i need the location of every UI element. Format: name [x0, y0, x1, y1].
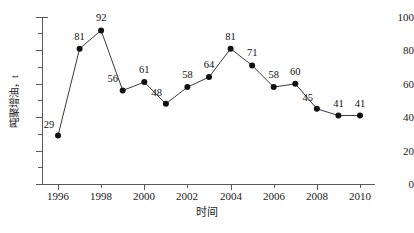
data-point — [98, 27, 104, 33]
data-point-label: 41 — [348, 98, 372, 109]
data-point-label: 64 — [197, 59, 221, 70]
data-point — [141, 79, 147, 85]
data-point-label: 60 — [283, 66, 307, 77]
data-point-label: 81 — [68, 31, 92, 42]
data-point — [55, 133, 61, 139]
data-point — [184, 84, 190, 90]
data-point — [163, 101, 169, 107]
data-point — [335, 113, 341, 119]
data-point-label: 48 — [145, 87, 169, 98]
data-point — [314, 106, 320, 112]
data-point-label: 41 — [326, 98, 350, 109]
data-point — [206, 74, 212, 80]
data-point — [292, 81, 298, 87]
data-point-label: 92 — [89, 12, 113, 23]
series-plot — [0, 0, 414, 233]
data-point-label: 29 — [37, 119, 61, 130]
data-point — [77, 46, 83, 52]
line-chart: 100 80 60 40 20 0 1996 1998 2000 2002 20… — [0, 0, 414, 233]
data-point-label: 81 — [219, 31, 243, 42]
data-point-label: 61 — [132, 64, 156, 75]
data-point-label: 58 — [175, 69, 199, 80]
data-point — [120, 88, 126, 94]
data-point-label: 71 — [240, 47, 264, 58]
data-point-label: 58 — [262, 69, 286, 80]
data-point-label: 45 — [296, 92, 320, 103]
data-point-label: 56 — [101, 73, 125, 84]
data-point — [357, 113, 363, 119]
data-point — [249, 62, 255, 68]
data-point — [271, 84, 277, 90]
data-point — [228, 46, 234, 52]
